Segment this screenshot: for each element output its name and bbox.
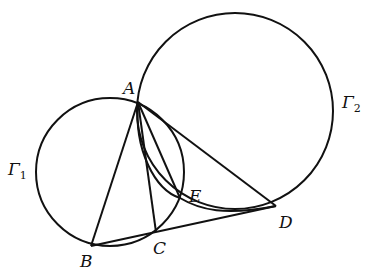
label-b: B	[79, 251, 93, 271]
label-gamma-2: Γ2	[341, 92, 361, 115]
label-e: E	[188, 186, 202, 206]
label-d: D	[278, 212, 293, 232]
label-gamma-1: Γ1	[7, 159, 27, 182]
label-a: A	[121, 78, 135, 98]
segment-ad	[138, 102, 276, 206]
circle-gamma-2	[137, 13, 333, 209]
segment-bd	[91, 206, 276, 246]
segment-ab	[91, 102, 138, 246]
geometry-diagram: A B C D E Γ1 Γ2	[0, 0, 390, 276]
label-c: C	[153, 238, 166, 258]
